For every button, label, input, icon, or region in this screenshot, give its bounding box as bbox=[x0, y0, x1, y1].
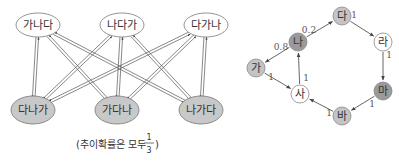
right-transition-edges: 0.80.2111111 bbox=[265, 10, 392, 118]
edge-probability-label: 1 bbox=[326, 108, 332, 118]
state-label: 나가다 bbox=[186, 104, 216, 117]
transition-arrow-up bbox=[129, 36, 196, 100]
transition-arrow-up bbox=[50, 34, 190, 103]
state-label: 다 bbox=[337, 10, 347, 23]
state-label: 바 bbox=[337, 110, 347, 123]
transition-arrow-up bbox=[45, 36, 112, 100]
bottom-state-node: 가다나 bbox=[95, 96, 139, 124]
edge-probability-label: 1 bbox=[268, 72, 274, 82]
state-label: 가 bbox=[251, 62, 261, 75]
state-label: 가다나 bbox=[102, 104, 132, 117]
state-label: 마 bbox=[378, 85, 388, 98]
state-label: 다나가 bbox=[18, 104, 48, 117]
caption-fraction-denominator: 3 bbox=[146, 146, 151, 155]
state-label: 가나다 bbox=[23, 19, 53, 32]
transition-arrow-down bbox=[47, 37, 106, 101]
state-node-ra: 라 bbox=[374, 33, 392, 51]
caption-text: (추이확률은 모두 bbox=[76, 139, 146, 150]
state-node-da: 다 bbox=[333, 7, 351, 25]
state-node-ga: 가 bbox=[247, 59, 265, 77]
left-state-nodes: 가나다나다가다가나다나가가다나나가다 bbox=[11, 13, 228, 124]
top-state-node: 다가나 bbox=[184, 13, 228, 37]
transition-probability-caption: (추이확률은 모두 1 3 ) bbox=[76, 133, 159, 155]
edge-probability-label: 1 bbox=[351, 10, 357, 20]
markov-chain-figure: 가나다나다가다가나다나가가다나나가다 (추이확률은 모두 1 3 ) 0.80.… bbox=[0, 0, 399, 161]
state-label: 나다가 bbox=[107, 19, 137, 32]
edge-da-ra bbox=[350, 21, 373, 36]
bottom-state-node: 나가다 bbox=[179, 96, 223, 124]
state-label: 라 bbox=[378, 36, 388, 49]
state-label: 나 bbox=[293, 36, 303, 49]
transition-arrow-down bbox=[127, 34, 194, 98]
top-state-node: 나다가 bbox=[100, 13, 144, 37]
state-label: 다가나 bbox=[191, 19, 221, 32]
edge-probability-label: 0.8 bbox=[274, 42, 289, 52]
state-node-na: 나 bbox=[289, 33, 307, 51]
bottom-state-node: 다나가 bbox=[11, 96, 55, 124]
edge-probability-label: 1 bbox=[303, 73, 309, 83]
state-node-sa: 사 bbox=[291, 85, 309, 103]
state-node-ma: 마 bbox=[374, 82, 392, 100]
edge-probability-label: 0.2 bbox=[302, 25, 316, 35]
edge-sa-na bbox=[298, 53, 299, 84]
transition-arrow-down bbox=[43, 34, 110, 98]
transition-arrow-down bbox=[49, 32, 189, 101]
top-state-node: 가나다 bbox=[16, 13, 60, 37]
edge-probability-label: 1 bbox=[386, 50, 392, 60]
state-node-ba: 바 bbox=[333, 107, 351, 125]
caption-close-paren: ) bbox=[155, 139, 159, 150]
edge-probability-label: 1 bbox=[369, 99, 375, 109]
transition-arrow-up bbox=[133, 35, 192, 99]
caption-fraction-numerator: 1 bbox=[146, 133, 151, 142]
left-transition-edges bbox=[32, 32, 206, 103]
state-label: 사 bbox=[295, 88, 305, 101]
